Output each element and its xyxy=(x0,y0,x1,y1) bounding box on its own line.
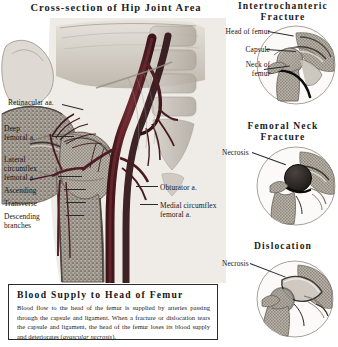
label-retinacular-arteries: Retinacular aa. xyxy=(8,98,86,107)
caption-box: Blood Supply to Head of Femur Blood flow… xyxy=(8,284,218,340)
leader-ascending xyxy=(64,189,86,190)
label-capsule: Capsule xyxy=(228,45,270,54)
label-medial-circumflex-femoral: Medial circumflex femoral a. xyxy=(160,201,226,219)
label-deep-femoral-artery: Deep femoral a. xyxy=(4,124,54,142)
leader-obturator xyxy=(136,186,158,187)
hip-cross-section-artwork xyxy=(0,18,226,283)
label-transverse-branch: Transverse xyxy=(4,199,66,208)
label-ascending-branch: Ascending xyxy=(4,186,64,195)
label-head-of-femur: Head of femur xyxy=(222,27,270,36)
label-neck-of-femur: Neck of femur xyxy=(222,60,270,78)
caption-body: Blood flow to the head of the femur is s… xyxy=(17,303,210,341)
label-lateral-circumflex-femoral: Lateral circumflex femoral a. xyxy=(4,155,58,182)
caption-body-part2: ). xyxy=(112,333,116,340)
inset-title-femoral-neck: Femoral Neck Fracture xyxy=(228,121,338,142)
leader-deep-femoral xyxy=(52,136,74,137)
inset-title-intertrochanteric: Intertrochanteric Fracture xyxy=(228,1,338,22)
label-descending-branches: Descending branches xyxy=(4,212,66,230)
leader-medial-circumflex xyxy=(140,204,158,205)
inset-dislocation xyxy=(256,260,334,338)
leader-transverse xyxy=(66,202,86,203)
inset-title-dislocation: Dislocation xyxy=(228,241,338,252)
label-obturator-artery: Obturator a. xyxy=(160,183,222,192)
page-title: Cross-section of Hip Joint Area xyxy=(10,2,222,14)
caption-heading: Blood Supply to Head of Femur xyxy=(17,289,210,300)
caption-body-italic: avascular necrosis xyxy=(63,333,112,340)
leader-lateral-circumflex xyxy=(58,176,82,177)
illustration-page: Cross-section of Hip Joint Area Intertro… xyxy=(0,0,338,347)
leader-descending xyxy=(66,215,84,216)
